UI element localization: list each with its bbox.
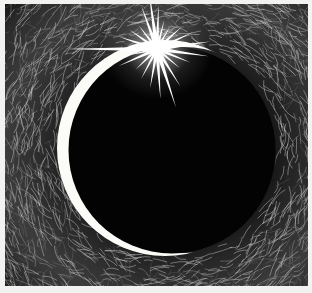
artwork-frame: Eclipse with Star Flare [0,0,312,293]
artwork-plate [5,4,308,286]
eclipse-illustration [5,4,308,286]
star-core-hot [153,45,160,52]
